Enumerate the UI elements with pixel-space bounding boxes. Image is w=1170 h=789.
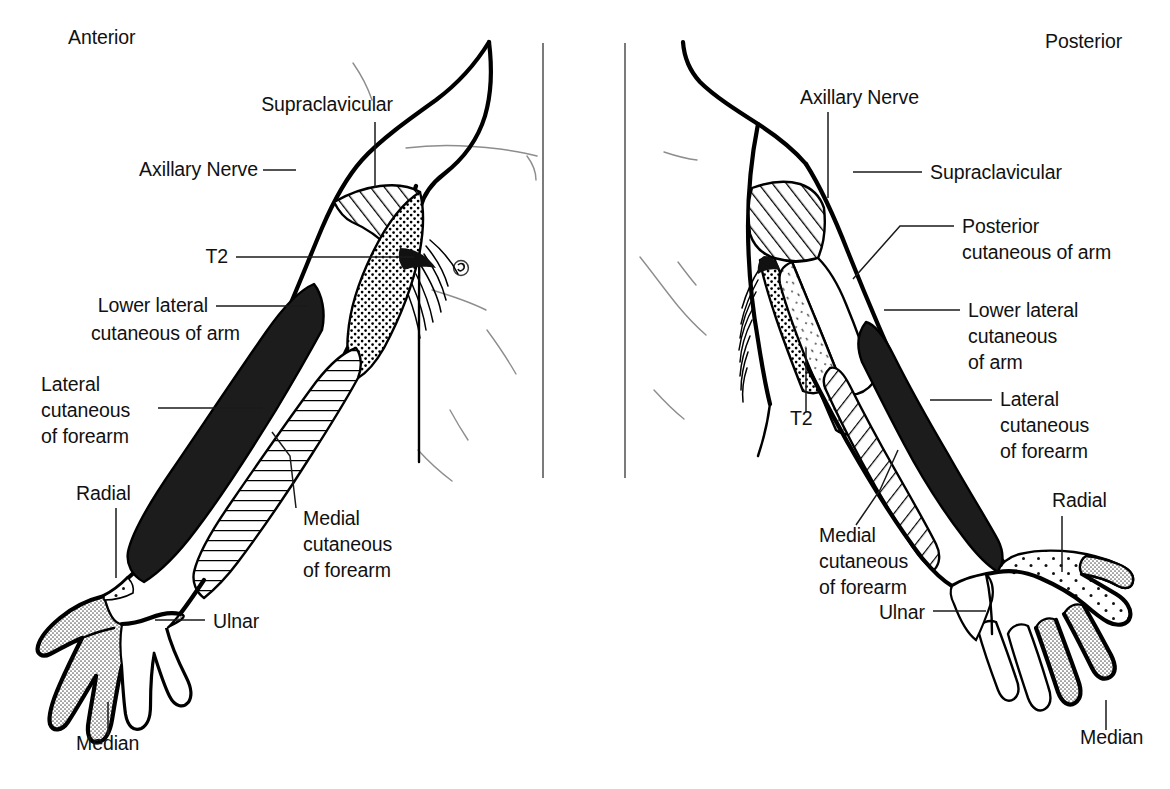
- label-t2-anterior: T2: [205, 245, 228, 267]
- label-lateral-cutaneous-forearm-posterior-l3: of forearm: [1000, 440, 1088, 462]
- label-lateral-cutaneous-forearm-anterior-l2: cutaneous: [41, 399, 130, 421]
- label-medial-cutaneous-forearm-anterior-l3: of forearm: [303, 559, 391, 581]
- label-supraclavicular-posterior: Supraclavicular: [930, 161, 1062, 183]
- label-lateral-cutaneous-forearm-posterior-l1: Lateral: [1000, 388, 1059, 410]
- label-medial-cutaneous-forearm-posterior-l1: Medial: [819, 524, 876, 546]
- label-lateral-cutaneous-forearm-anterior-l1: Lateral: [41, 373, 100, 395]
- label-radial-posterior: Radial: [1052, 489, 1107, 511]
- label-axillary-nerve-posterior: Axillary Nerve: [800, 86, 919, 108]
- label-lateral-cutaneous-forearm-anterior-l3: of forearm: [41, 425, 129, 447]
- label-ulnar-anterior: Ulnar: [213, 610, 260, 632]
- posterior-supraclavicular-region: [749, 182, 825, 261]
- label-supraclavicular-anterior: Supraclavicular: [261, 93, 393, 115]
- label-radial-anterior: Radial: [76, 482, 131, 504]
- label-medial-cutaneous-forearm-posterior-l2: cutaneous: [819, 550, 908, 572]
- label-lower-lateral-cutaneous-arm-posterior-l3: of arm: [968, 351, 1023, 373]
- label-lower-lateral-cutaneous-arm-posterior-l2: cutaneous: [968, 325, 1057, 347]
- label-t2-posterior: T2: [790, 407, 813, 429]
- label-lower-lateral-cutaneous-arm-anterior-l2: cutaneous of arm: [91, 322, 240, 344]
- label-median-posterior: Median: [1080, 726, 1143, 748]
- label-lower-lateral-cutaneous-arm-posterior-l1: Lower lateral: [968, 299, 1078, 321]
- label-medial-cutaneous-forearm-anterior-l2: cutaneous: [303, 533, 392, 555]
- figure-page: Anterior Supraclavicular Axillary Nerve …: [0, 0, 1170, 789]
- label-ulnar-posterior: Ulnar: [879, 601, 926, 623]
- label-lower-lateral-cutaneous-arm-anterior-l1: Lower lateral: [98, 294, 208, 316]
- label-posterior-cutaneous-arm-l1: Posterior: [962, 215, 1040, 237]
- label-lateral-cutaneous-forearm-posterior-l2: cutaneous: [1000, 414, 1089, 436]
- panel-heading-posterior: Posterior: [1045, 30, 1123, 52]
- label-medial-cutaneous-forearm-posterior-l3: of forearm: [819, 576, 907, 598]
- label-posterior-cutaneous-arm-l2: cutaneous of arm: [962, 241, 1111, 263]
- panel-heading-anterior: Anterior: [68, 26, 136, 48]
- label-medial-cutaneous-forearm-anterior-l1: Medial: [303, 507, 360, 529]
- anatomy-figure: Anterior Supraclavicular Axillary Nerve …: [0, 0, 1170, 789]
- label-median-anterior: Median: [76, 732, 139, 754]
- label-axillary-nerve-anterior: Axillary Nerve: [139, 158, 258, 180]
